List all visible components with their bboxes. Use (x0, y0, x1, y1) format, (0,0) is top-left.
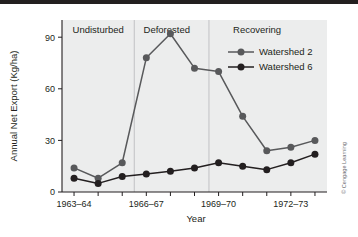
data-point (239, 113, 246, 120)
figure-container: UndisturbedDeforestedRecovering 0306090 … (0, 0, 358, 237)
x-axis-title: Year (186, 213, 205, 224)
data-point (263, 166, 270, 173)
y-tick-label-60: 60 (45, 84, 55, 94)
data-point (71, 164, 78, 171)
data-point (239, 163, 246, 170)
y-axis-title: Annual Net Export (Kg/ha) (8, 51, 19, 162)
data-point (191, 164, 198, 171)
y-tick-label-0: 0 (50, 187, 55, 197)
legend-label-0: Watershed 2 (259, 46, 313, 57)
y-tick-label-30: 30 (45, 136, 55, 146)
x-axis-tick-labels: 1963–641966–671969–701972–73 (57, 199, 309, 209)
data-point (119, 173, 126, 180)
data-point (95, 180, 102, 187)
data-point (191, 65, 198, 72)
x-tick-label-1: 1966–67 (129, 199, 164, 209)
data-point (143, 54, 150, 61)
data-point (119, 159, 126, 166)
period-label-undisturbed: Undisturbed (73, 24, 124, 35)
legend-label-1: Watershed 6 (259, 61, 313, 72)
data-point (215, 68, 222, 75)
x-tick-label-3: 1972–73 (273, 199, 308, 209)
x-axis-ticks (74, 192, 315, 196)
y-axis-ticks: 0306090 (45, 33, 62, 198)
data-point (311, 151, 318, 158)
legend-marker-1 (238, 64, 245, 71)
data-point (71, 175, 78, 182)
data-point (287, 144, 294, 151)
y-tick-label-90: 90 (45, 33, 55, 43)
legend-marker-0 (238, 49, 245, 56)
period-label-recovering: Recovering (233, 24, 281, 35)
data-point (311, 137, 318, 144)
x-tick-label-0: 1963–64 (57, 199, 92, 209)
x-tick-label-2: 1969–70 (201, 199, 236, 209)
period-label-deforested: Deforested (144, 24, 190, 35)
copyright-credit: © Cengage Learning (341, 142, 347, 194)
data-point (167, 30, 174, 37)
period-labels: UndisturbedDeforestedRecovering (73, 24, 282, 35)
data-point (287, 159, 294, 166)
data-point (143, 170, 150, 177)
data-point (263, 147, 270, 154)
data-point (167, 168, 174, 175)
line-chart: UndisturbedDeforestedRecovering 0306090 … (0, 0, 358, 237)
data-point (215, 159, 222, 166)
